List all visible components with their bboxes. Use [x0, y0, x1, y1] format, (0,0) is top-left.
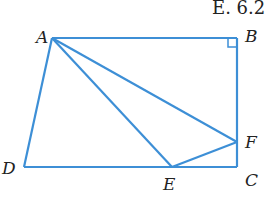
segment-da — [24, 38, 52, 167]
label-b: B — [244, 26, 258, 46]
right-angle-marker — [228, 38, 237, 47]
segment-ae — [52, 38, 172, 167]
header-text: E. 6.2 — [212, 0, 265, 18]
label-f: F — [244, 132, 258, 152]
segment-af — [52, 38, 237, 142]
segment-ef — [172, 142, 237, 167]
label-e: E — [162, 174, 176, 194]
geometry-figure: E. 6.2 A B C D E F — [0, 0, 265, 213]
label-d: D — [1, 158, 16, 178]
label-c: C — [245, 170, 258, 190]
figure-lines — [24, 38, 237, 167]
label-a: A — [34, 27, 48, 47]
